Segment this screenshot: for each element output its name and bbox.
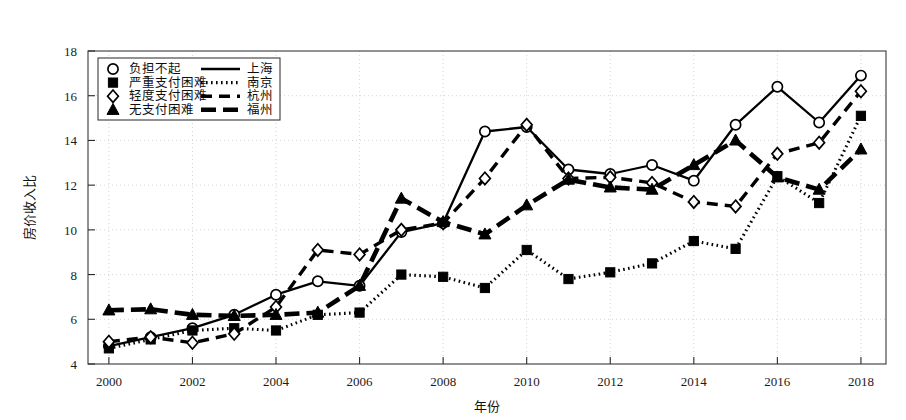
marker-circle [271,290,281,300]
chart-figure: 4681012141618200020022004200620082010201… [0,0,906,420]
marker-diamond [688,196,699,208]
marker-circle [647,160,657,170]
marker-circle [313,276,323,286]
marker-diamond [730,200,741,212]
marker-square [108,78,117,87]
series-杭州 [103,85,866,349]
marker-square [689,236,698,245]
marker-square [647,259,656,268]
marker-diamond [354,248,365,260]
marker-triangle [521,199,533,210]
marker-circle [689,176,699,186]
marker-square [397,270,406,279]
y-tick-label: 18 [64,44,77,59]
marker-square [731,244,740,253]
x-tick-label: 2016 [764,374,791,389]
y-tick-label: 16 [64,89,78,104]
x-tick-label: 2002 [179,374,205,389]
marker-triangle [395,192,407,203]
x-tick-label: 2018 [848,374,874,389]
marker-square [564,274,573,283]
marker-circle [480,126,490,136]
marker-square [606,268,615,277]
x-tick-label: 2006 [347,374,374,389]
marker-triangle [730,134,742,145]
marker-square [522,245,531,254]
marker-triangle [855,143,867,154]
y-tick-label: 12 [64,178,77,193]
marker-square [856,111,865,120]
marker-square [480,283,489,292]
marker-square [439,272,448,281]
x-tick-label: 2010 [514,374,540,389]
y-axis-title: 房价收入比 [22,175,37,240]
x-tick-label: 2000 [96,374,122,389]
legend: 负担不起上海严重支付困难南京轻度支付困难杭州无支付困难福州 [98,58,280,120]
marker-circle [814,117,824,127]
y-tick-label: 4 [71,357,78,372]
line-chart-canvas: 4681012141618200020022004200620082010201… [0,0,906,420]
x-tick-label: 2004 [263,374,290,389]
x-tick-label: 2008 [430,374,456,389]
y-tick-label: 14 [64,133,78,148]
marker-square [271,326,280,335]
marker-square [188,326,197,335]
x-axis-title: 年份 [474,399,500,414]
y-tick-label: 6 [71,312,78,327]
legend-series-label: 福州 [247,102,273,117]
y-tick-label: 10 [64,223,77,238]
marker-diamond [187,337,198,349]
marker-square [355,308,364,317]
x-tick-label: 2014 [681,374,708,389]
marker-circle [856,70,866,80]
marker-circle [772,82,782,92]
marker-circle [108,64,118,74]
legend-marker-label: 无支付困难 [129,102,194,117]
marker-square [815,198,824,207]
marker-circle [730,120,740,130]
x-tick-label: 2012 [597,374,623,389]
y-tick-label: 8 [71,268,78,283]
